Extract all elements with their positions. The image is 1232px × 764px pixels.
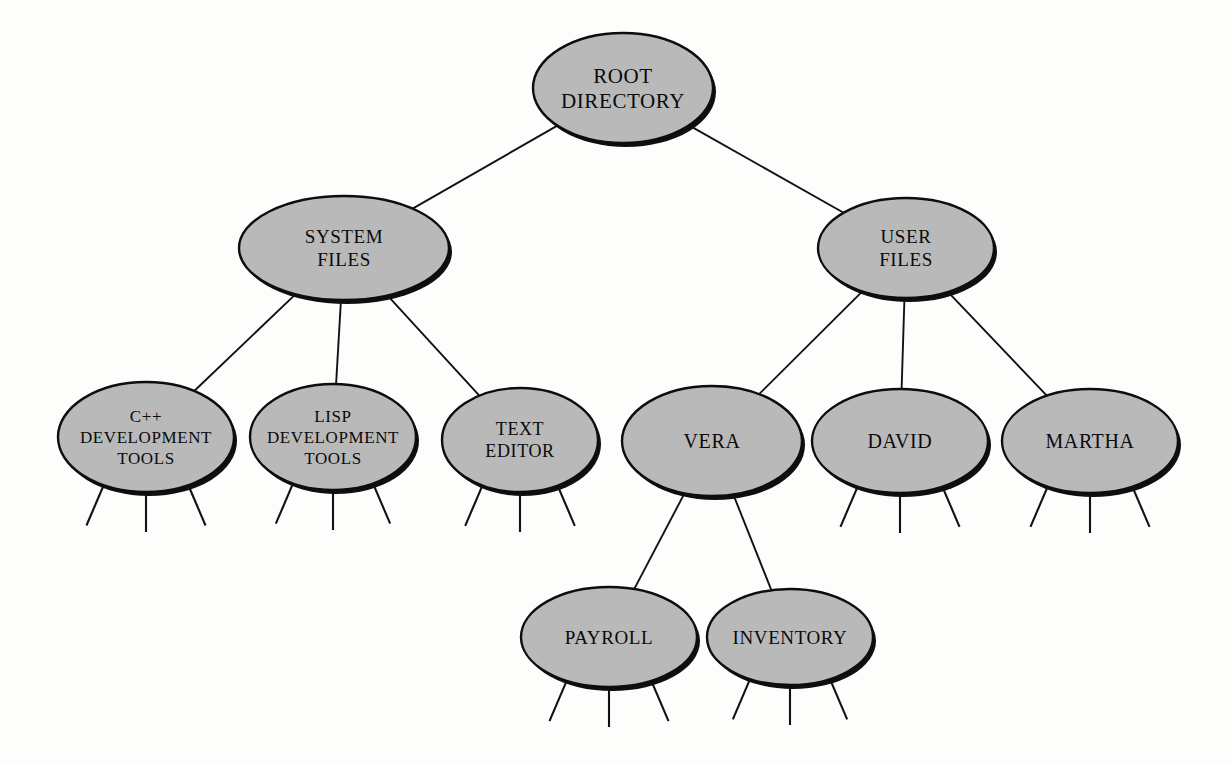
- node-label-david: DAVID: [868, 430, 933, 452]
- node-label-line: SYSTEM: [305, 226, 384, 247]
- node-label-vera: VERA: [684, 430, 741, 452]
- leaf-leg-cpp-development-tools-3: [188, 483, 206, 525]
- node-lisp-development-tools[interactable]: LISPDEVELOPMENTTOOLS: [250, 384, 419, 494]
- tree-edge-root-to-user-files: [689, 125, 844, 212]
- tree-edge-user-files-to-martha: [948, 292, 1047, 396]
- node-label-line: DEVELOPMENT: [80, 428, 212, 447]
- node-label-line: TEXT: [496, 419, 544, 439]
- leaf-leg-inventory-3: [829, 677, 847, 719]
- node-user-files[interactable]: USERFILES: [818, 198, 997, 302]
- node-label-line: TOOLS: [117, 449, 174, 468]
- node-label-line: LISP: [314, 407, 351, 426]
- tree-edge-vera-to-inventory: [733, 494, 771, 590]
- leaf-leg-inventory-1: [733, 677, 751, 719]
- tree-diagram-canvas: ROOTDIRECTORYSYSTEMFILESUSERFILESC++DEVE…: [0, 0, 1232, 764]
- leaf-leg-martha-1: [1030, 485, 1048, 527]
- node-label-line: VERA: [684, 430, 741, 452]
- tree-edge-system-files-to-lisp-development-tools: [336, 300, 341, 384]
- node-label-line: USER: [881, 226, 932, 247]
- node-label-line: FILES: [879, 249, 933, 270]
- node-cpp-development-tools[interactable]: C++DEVELOPMENTTOOLS: [58, 382, 237, 496]
- node-ellipse-system-files[interactable]: [239, 196, 449, 300]
- tree-edge-user-files-to-vera: [759, 291, 862, 394]
- leaf-leg-david-1: [840, 485, 858, 527]
- leaf-leg-david-3: [942, 485, 960, 527]
- leaf-leg-text-editor-3: [557, 484, 575, 526]
- leaf-leg-lisp-development-tools-1: [276, 482, 294, 524]
- node-label-line: INVENTORY: [733, 627, 848, 648]
- node-system-files[interactable]: SYSTEMFILES: [239, 196, 452, 304]
- leaf-leg-martha-3: [1132, 485, 1150, 527]
- node-label-line: ROOT: [593, 64, 653, 88]
- edges-layer: [194, 125, 1047, 590]
- leaf-leg-payroll-3: [651, 679, 669, 721]
- node-inventory[interactable]: INVENTORY: [707, 589, 876, 689]
- leaf-leg-payroll-1: [549, 679, 567, 721]
- node-martha[interactable]: MARTHA: [1002, 389, 1181, 497]
- tree-edge-vera-to-payroll: [634, 493, 684, 589]
- node-label-line: DAVID: [868, 430, 933, 452]
- node-label-line: C++: [130, 407, 162, 426]
- node-david[interactable]: DAVID: [812, 389, 991, 497]
- node-label-line: TOOLS: [304, 449, 361, 468]
- leaf-leg-cpp-development-tools-1: [86, 483, 104, 525]
- tree-edge-user-files-to-david: [902, 298, 905, 389]
- tree-edge-system-files-to-text-editor: [387, 295, 479, 395]
- nodes-layer: ROOTDIRECTORYSYSTEMFILESUSERFILESC++DEVE…: [58, 33, 1181, 691]
- tree-edge-root-to-system-files: [413, 126, 558, 209]
- node-label-line: MARTHA: [1045, 430, 1134, 452]
- node-ellipse-root[interactable]: [533, 33, 713, 143]
- node-vera[interactable]: VERA: [622, 386, 805, 500]
- node-label-line: PAYROLL: [565, 627, 653, 648]
- node-root[interactable]: ROOTDIRECTORY: [533, 33, 716, 147]
- node-label-line: EDITOR: [485, 441, 554, 461]
- leaf-leg-lisp-development-tools-3: [372, 482, 390, 524]
- node-label-line: DEVELOPMENT: [267, 428, 399, 447]
- node-ellipse-text-editor[interactable]: [442, 388, 598, 492]
- node-label-payroll: PAYROLL: [565, 627, 653, 648]
- node-label-line: DIRECTORY: [561, 89, 685, 113]
- node-label-martha: MARTHA: [1045, 430, 1134, 452]
- directory-tree-diagram: ROOTDIRECTORYSYSTEMFILESUSERFILESC++DEVE…: [0, 0, 1232, 764]
- tree-edge-system-files-to-cpp-development-tools: [194, 294, 295, 391]
- node-text-editor[interactable]: TEXTEDITOR: [442, 388, 601, 496]
- leaf-leg-text-editor-1: [465, 484, 483, 526]
- node-label-line: FILES: [317, 249, 371, 270]
- node-ellipse-user-files[interactable]: [818, 198, 994, 298]
- node-label-inventory: INVENTORY: [733, 627, 848, 648]
- node-payroll[interactable]: PAYROLL: [521, 587, 700, 691]
